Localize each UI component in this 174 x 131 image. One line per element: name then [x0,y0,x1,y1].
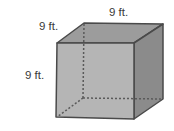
label-top-width: 9 ft. [109,6,128,18]
label-height: 9 ft. [25,69,44,81]
front-face [56,43,134,119]
label-top-depth: 9 ft. [39,20,58,32]
cube-diagram: 9 ft. 9 ft. 9 ft. [0,0,174,131]
